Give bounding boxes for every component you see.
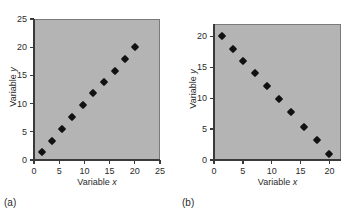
x-axis-title-a: Variable x [34, 177, 160, 187]
x-tick-b [213, 160, 214, 164]
y-axis-line-a [33, 19, 34, 160]
x-axis-line-a [34, 159, 160, 160]
y-tick-label-b: 10 [197, 94, 207, 103]
y-tick-b [210, 36, 214, 37]
y-axis-line-b [213, 24, 214, 160]
x-tick-b [300, 160, 301, 164]
panel-b: 0510152005101520 Variable y Variable x (… [178, 0, 356, 219]
x-tick-a [59, 160, 60, 164]
y-tick-a [30, 75, 34, 76]
y-tick-label-a: 10 [17, 99, 27, 108]
x-tick-label-a: 5 [57, 167, 62, 176]
x-tick-a [84, 160, 85, 164]
y-tick-label-a: 0 [22, 156, 27, 165]
y-tick-label-a: 5 [22, 127, 27, 136]
y-axis-title-a: Variable y [8, 52, 18, 122]
y-tick-b [210, 98, 214, 99]
y-tick-a [30, 47, 34, 48]
plot-area-b: 0510152005101520 [214, 24, 341, 160]
y-tick-label-b: 15 [197, 63, 207, 72]
x-axis-line-b [214, 159, 341, 160]
x-tick-label-a: 10 [79, 167, 89, 176]
x-tick-label-a: 0 [31, 167, 36, 176]
y-tick-label-a: 25 [17, 15, 27, 24]
x-tick-label-b: 20 [324, 167, 334, 176]
x-tick-a [33, 160, 34, 164]
y-tick-label-b: 0 [202, 156, 207, 165]
x-tick-label-b: 10 [267, 167, 277, 176]
y-tick-label-a: 15 [17, 71, 27, 80]
x-tick-label-a: 25 [155, 167, 165, 176]
y-tick-label-b: 20 [197, 32, 207, 41]
y-axis-title-b: Variable y [188, 54, 198, 124]
correlation-scatter-figure: 05101520250510152025 Variable y Variable… [0, 0, 357, 219]
y-tick-label-a: 20 [17, 43, 27, 52]
y-tick-b [210, 128, 214, 129]
x-tick-label-a: 20 [130, 167, 140, 176]
x-tick-a [109, 160, 110, 164]
x-axis-title-b: Variable x [214, 177, 341, 187]
y-tick-a [30, 131, 34, 132]
y-tick-label-b: 5 [202, 125, 207, 134]
x-tick-b [329, 160, 330, 164]
x-tick-a [134, 160, 135, 164]
x-tick-label-b: 15 [296, 167, 306, 176]
x-tick-label-b: 5 [240, 167, 245, 176]
x-tick-b [242, 160, 243, 164]
panel-a-caption: (a) [4, 197, 16, 208]
panel-b-caption: (b) [182, 197, 194, 208]
x-tick-label-a: 15 [105, 167, 115, 176]
x-tick-label-b: 0 [211, 167, 216, 176]
y-tick-b [210, 67, 214, 68]
x-tick-a [159, 160, 160, 164]
y-tick-a [30, 18, 34, 19]
plot-area-a: 05101520250510152025 [34, 19, 160, 160]
x-tick-b [271, 160, 272, 164]
panel-a: 05101520250510152025 Variable y Variable… [0, 0, 178, 219]
y-tick-a [30, 103, 34, 104]
